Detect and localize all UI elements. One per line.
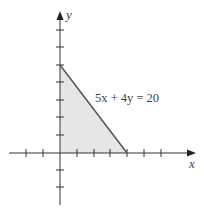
x-axis-label: x [188,156,195,171]
y-axis-label: y [64,7,72,22]
equation-label: 5x + 4y = 20 [95,91,159,105]
y-axis-arrow-icon [57,11,64,20]
coordinate-plane: 5x + 4y = 20 x y [0,0,204,213]
